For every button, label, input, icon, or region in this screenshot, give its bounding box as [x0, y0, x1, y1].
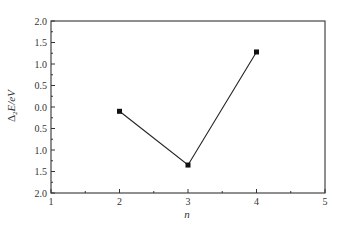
chart: 12345 2.01.51.00.50.00.51.01.52.0 n Δ2E/… — [0, 0, 339, 233]
y-tick-label: 0.5 — [35, 123, 48, 134]
y-axis-title: Δ2E/eV — [5, 89, 19, 122]
series-group — [117, 49, 259, 167]
y-axis-title-rest: E/eV — [5, 89, 17, 113]
y-tick-label: 1.0 — [35, 145, 48, 156]
x-tick-label: 2 — [117, 196, 122, 207]
y-axis-ticks: 2.01.51.00.50.00.51.01.52.0 — [35, 16, 56, 199]
y-tick-label: 0.0 — [35, 102, 48, 113]
y-tick-label: 0.5 — [35, 80, 48, 91]
y-tick-label: 1.0 — [35, 59, 48, 70]
x-tick-label: 4 — [254, 196, 259, 207]
series-line — [120, 52, 257, 165]
x-tick-label: 3 — [186, 196, 191, 207]
x-tick-label: 5 — [323, 196, 328, 207]
y-tick-label: 2.0 — [35, 188, 48, 199]
y-tick-label: 1.5 — [35, 166, 48, 177]
y-tick-label: 2.0 — [35, 16, 48, 27]
y-axis-title-delta: Δ — [5, 115, 17, 122]
x-tick-label: 1 — [49, 196, 54, 207]
x-axis-title: n — [184, 208, 190, 220]
data-point — [254, 49, 259, 54]
x-axis-ticks: 12345 — [49, 189, 328, 207]
y-tick-label: 1.5 — [35, 37, 48, 48]
data-point — [186, 163, 191, 168]
data-point — [117, 109, 122, 114]
